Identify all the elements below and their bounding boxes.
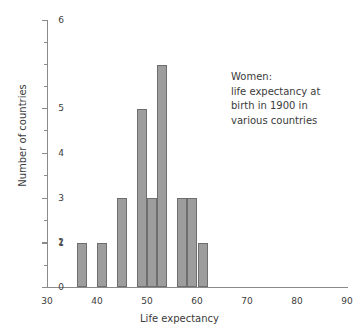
y-tick-minor-3-5 [44, 175, 47, 176]
y-axis-title: Number of countries [17, 66, 28, 206]
y-tick-minor-2-5 [44, 220, 47, 221]
histogram-bar [157, 65, 167, 288]
y-tick-label-0: 0 [44, 283, 64, 292]
y-tick-label-3: 3 [44, 194, 64, 203]
x-tick-label-40: 40 [85, 296, 109, 306]
histogram-bar [187, 198, 197, 287]
x-tick-label-70: 70 [235, 296, 259, 306]
histogram-bar [147, 198, 157, 287]
x-axis-title: Life expectancy [0, 313, 359, 324]
annotation-line-2: life expectancy at [231, 85, 320, 100]
y-tick-label-5: 5 [44, 104, 64, 113]
histogram-bar [198, 243, 208, 288]
histogram-bar [137, 109, 147, 287]
x-tick-label-50: 50 [135, 296, 159, 306]
x-tick-label-30: 30 [35, 296, 59, 306]
y-tick-minor-4-5 [44, 130, 47, 131]
histogram-bar [77, 243, 87, 288]
y-tick-label-4: 4 [44, 149, 64, 158]
y-tick-minor-5-5 [44, 64, 47, 65]
annotation-line-1: Women: [231, 70, 320, 85]
y-tick-minor-5-5b [44, 42, 47, 43]
x-tick-label-60: 60 [185, 296, 209, 306]
annotation-line-4: various countries [231, 114, 320, 129]
x-tick-label-80: 80 [285, 296, 309, 306]
y-tick-label-6: 6 [44, 16, 64, 25]
histogram-bar [177, 198, 187, 287]
histogram-bar [97, 243, 107, 288]
annotation-line-3: birth in 1900 in [231, 99, 320, 114]
y-tick-minor-5-0-upper [44, 86, 47, 87]
x-tick-label-90: 90 [335, 296, 359, 306]
chart-annotation: Women: life expectancy at birth in 1900 … [231, 70, 320, 128]
histogram-bar [117, 198, 127, 287]
histogram-figure: 6 5 4 3 2 1 0 30 40 50 60 70 80 90 Life … [0, 0, 359, 334]
y-tick-minor-1-5 [44, 265, 47, 266]
y-tick-label-1: 1 [44, 239, 64, 248]
